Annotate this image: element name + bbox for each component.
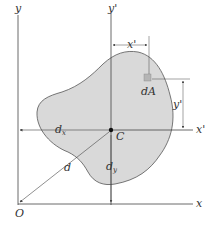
x-prime-axis-label: x' <box>196 123 205 136</box>
x-axis-label: x <box>196 197 203 210</box>
y-prime-dim-label: y' <box>172 98 182 111</box>
y-prime-axis-label: y' <box>107 2 117 15</box>
area-shape <box>37 51 173 184</box>
distance-d-label: d <box>64 161 71 174</box>
centroid-point <box>109 128 113 132</box>
parallel-axis-diagram: y x y' x' O C dA x' y' dx dy d <box>0 0 216 230</box>
x-prime-dim-label: x' <box>127 38 136 51</box>
area-element <box>144 74 151 81</box>
centroid-label: C <box>116 130 125 143</box>
y-axis-label: y <box>14 2 22 15</box>
origin-label: O <box>15 207 24 220</box>
area-element-label: dA <box>141 85 156 98</box>
